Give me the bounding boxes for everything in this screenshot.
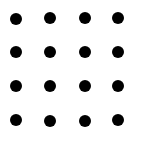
dot bbox=[44, 46, 56, 58]
dot bbox=[79, 80, 91, 92]
dot bbox=[79, 115, 91, 127]
dot bbox=[10, 46, 22, 58]
dot bbox=[10, 13, 22, 25]
dot bbox=[79, 12, 91, 24]
dot bbox=[44, 115, 56, 127]
dot bbox=[10, 114, 22, 126]
dot bbox=[112, 80, 124, 92]
dot bbox=[112, 46, 124, 58]
dot bbox=[10, 80, 22, 92]
dot bbox=[79, 46, 91, 58]
dot bbox=[44, 80, 56, 92]
dot-grid bbox=[0, 0, 154, 157]
dot bbox=[112, 114, 124, 126]
dot bbox=[44, 12, 56, 24]
dot bbox=[112, 12, 124, 24]
